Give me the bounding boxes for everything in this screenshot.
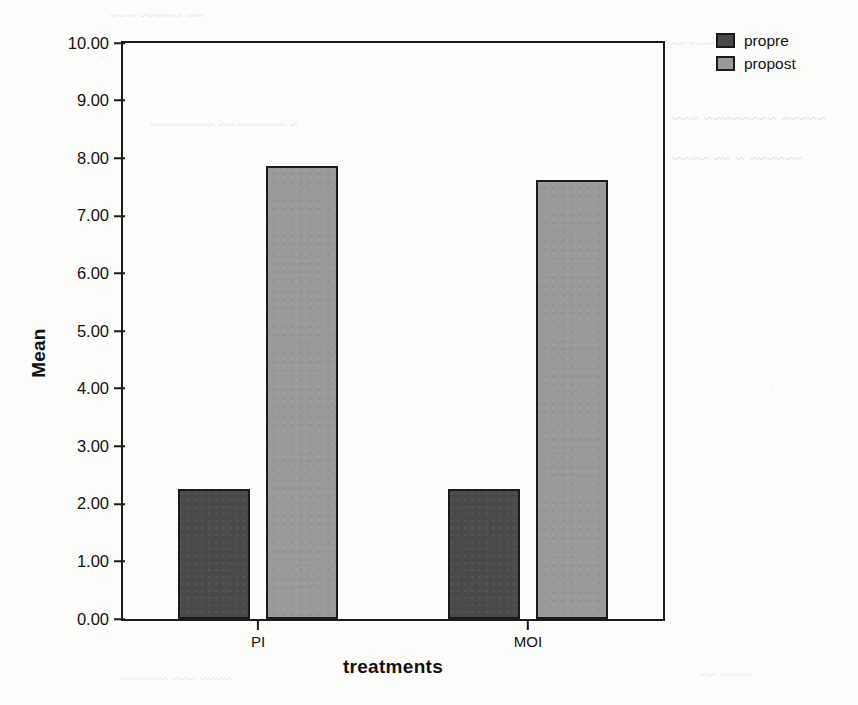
y-axis-tick: 0.00 (77, 611, 123, 628)
y-axis-tick-mark (114, 503, 125, 505)
y-axis-tick: 7.00 (77, 208, 123, 225)
y-axis-title: Mean (28, 328, 50, 377)
legend-label-propre: propre (744, 33, 789, 49)
x-axis-tick-label: MOI (514, 633, 542, 650)
y-axis-tick: 5.00 (77, 323, 123, 340)
bar-propost-MOI (536, 180, 608, 619)
y-axis-tick-label: 5.00 (77, 323, 109, 340)
bar-propre-MOI (448, 489, 520, 619)
y-axis-tick-mark (114, 388, 125, 390)
bleed-through-text-top: ~~ ~~~~~ ~~~ (110, 8, 203, 25)
y-axis-tick-label: 6.00 (77, 265, 109, 282)
y-axis-tick: 2.00 (77, 496, 123, 513)
y-axis-tick: 4.00 (77, 380, 123, 397)
bar-propost-PI (266, 166, 338, 619)
y-axis-tick-label: 8.00 (77, 150, 109, 167)
y-axis-tick: 6.00 (77, 265, 123, 282)
legend-label-propost: propost (744, 56, 796, 72)
y-axis-tick-mark (114, 330, 125, 332)
y-axis-tick-label: 2.00 (77, 496, 109, 513)
x-axis-tick-MOI: MOI (514, 619, 542, 650)
y-axis-tick-label: 0.00 (77, 611, 109, 628)
legend-swatch-propost (716, 56, 735, 71)
x-axis-tick-mark (257, 619, 259, 630)
y-axis-tick-mark (114, 618, 125, 620)
y-axis-tick: 9.00 (77, 92, 123, 109)
y-axis-tick-label: 1.00 (77, 553, 109, 570)
y-axis-tick-mark (114, 157, 125, 159)
bleed-through-text-right-1: ~~~ ~~ (668, 36, 715, 53)
y-axis-tick: 1.00 (77, 553, 123, 570)
bleed-through-text-right-3: ~~~~~~ ~ ~~ ~~~~ (672, 150, 803, 168)
y-axis-tick-mark (114, 445, 125, 447)
legend-item-propre: propre (716, 33, 796, 49)
legend-swatch-propre (716, 33, 735, 48)
y-axis-tick-label: 7.00 (77, 208, 109, 225)
chart-plot-area: 0.001.002.003.004.005.006.007.008.009.00… (121, 41, 665, 621)
plot-inner: 0.001.002.003.004.005.006.007.008.009.00… (123, 43, 663, 619)
x-axis-tick-mark (527, 619, 529, 630)
y-axis-tick-mark (114, 42, 125, 44)
y-axis-tick-mark (114, 272, 125, 274)
y-axis-tick-label: 3.00 (77, 438, 109, 455)
y-axis-tick-label: 4.00 (77, 380, 109, 397)
bleed-through-text-right-2: ~~~~~ ~~~~~~~~ ~~~ (672, 110, 826, 128)
chart-legend: proprepropost (716, 33, 796, 71)
y-axis-tick: 8.00 (77, 150, 123, 167)
y-axis-tick-label: 10.00 (68, 35, 109, 52)
y-axis-tick: 3.00 (77, 438, 123, 455)
x-axis-title: treatments (121, 656, 665, 678)
x-axis-tick-PI: PI (251, 619, 265, 650)
y-axis-tick-mark (114, 100, 125, 102)
y-axis-tick-mark (114, 215, 125, 217)
bleed-through-text-right-4: ~~~~ ~~ (700, 668, 752, 684)
y-axis-tick-label: 9.00 (77, 92, 109, 109)
y-axis-tick-mark (114, 560, 125, 562)
x-axis-tick-label: PI (251, 633, 265, 650)
bar-propre-PI (178, 489, 250, 619)
legend-item-propost: propost (716, 56, 796, 72)
y-axis-tick: 10.00 (68, 35, 123, 52)
